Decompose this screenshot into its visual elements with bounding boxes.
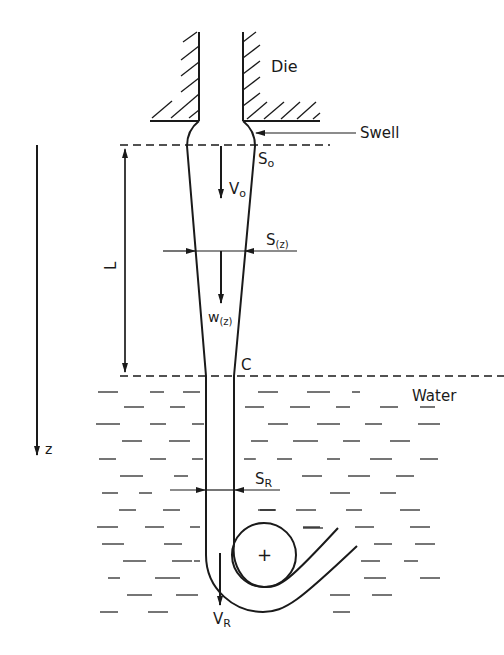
length-label: L bbox=[102, 261, 120, 270]
sr-label: SR bbox=[255, 470, 273, 490]
die bbox=[150, 32, 320, 121]
point-c-label: C bbox=[241, 356, 251, 374]
die-label: Die bbox=[271, 57, 298, 76]
roller: + bbox=[232, 523, 296, 587]
s0-label: So bbox=[258, 150, 275, 170]
wz-label: w(z) bbox=[208, 309, 233, 327]
swell-label: Swell bbox=[360, 124, 399, 142]
z-axis-label: z bbox=[45, 441, 52, 457]
fiber-jet bbox=[187, 121, 357, 612]
water-label: Water bbox=[412, 387, 457, 405]
fiber-spinning-diagram: + Die Swell So Vo bbox=[0, 0, 504, 655]
v0-label: Vo bbox=[229, 180, 246, 200]
sz-label: S(z) bbox=[266, 231, 289, 250]
water-hatching bbox=[96, 392, 440, 612]
vr-label: VR bbox=[213, 610, 231, 630]
svg-text:+: + bbox=[257, 544, 272, 565]
